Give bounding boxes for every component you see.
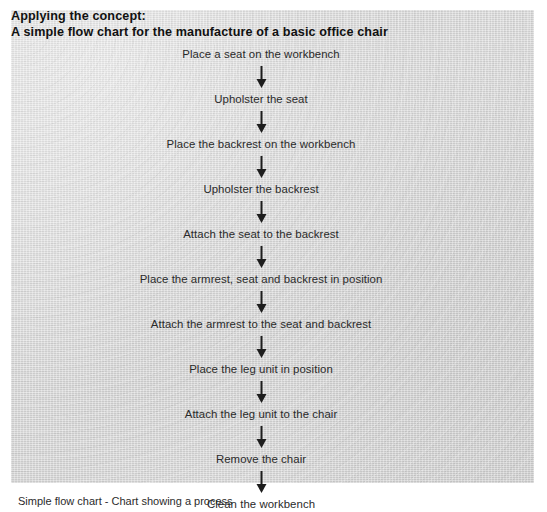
- flow-step: Place the armrest, seat and backrest in …: [0, 273, 522, 287]
- down-arrow-icon: [254, 381, 268, 404]
- flow-step: Clean the workbench: [0, 498, 522, 512]
- down-arrow-icon: [254, 156, 268, 179]
- flow-chart: Place a seat on the workbench Upholster …: [0, 48, 523, 512]
- flow-step: Upholster the backrest: [0, 183, 522, 197]
- down-arrow-icon: [254, 111, 268, 134]
- flow-step: Place the leg unit in position: [0, 363, 522, 377]
- flow-step: Remove the chair: [0, 453, 522, 467]
- flow-step: Attach the armrest to the seat and backr…: [0, 318, 522, 332]
- down-arrow-icon: [254, 426, 268, 449]
- flow-step: Place the backrest on the workbench: [0, 138, 522, 152]
- heading-line-2: A simple flow chart for the manufacture …: [11, 25, 481, 41]
- down-arrow-icon: [254, 246, 268, 269]
- down-arrow-icon: [254, 471, 268, 494]
- flow-step: Attach the seat to the backrest: [0, 228, 522, 242]
- figure-heading: Applying the concept: A simple flow char…: [11, 9, 481, 40]
- down-arrow-icon: [254, 336, 268, 359]
- flow-step: Upholster the seat: [0, 93, 522, 107]
- down-arrow-icon: [254, 66, 268, 89]
- heading-line-1: Applying the concept:: [11, 9, 481, 25]
- flow-step: Place a seat on the workbench: [0, 48, 522, 62]
- flow-step: Attach the leg unit to the chair: [0, 408, 522, 422]
- down-arrow-icon: [254, 201, 268, 224]
- down-arrow-icon: [254, 291, 268, 314]
